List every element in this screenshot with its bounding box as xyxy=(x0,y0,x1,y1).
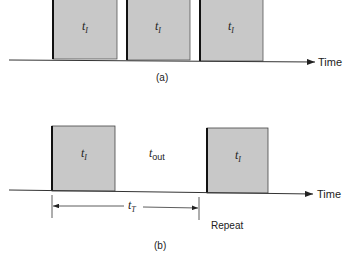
time-label-a: Time xyxy=(318,56,342,68)
caption-a: (a) xyxy=(156,72,168,83)
time-label-b: Time xyxy=(317,188,341,200)
caption-b: (b) xyxy=(154,240,166,251)
panel-a: tI tI tI Time (a) xyxy=(9,0,342,83)
period-label-tT: tT xyxy=(128,198,136,214)
gap-label-tout: tout xyxy=(149,146,165,162)
panel-b: tI tI tout tT Time Repeat (b) xyxy=(9,126,341,251)
timing-diagram: tI tI tI Time (a) tI tI tout tT Time Rep… xyxy=(0,0,354,261)
period-arrow-right xyxy=(143,207,198,208)
repeat-label: Repeat xyxy=(211,220,243,231)
